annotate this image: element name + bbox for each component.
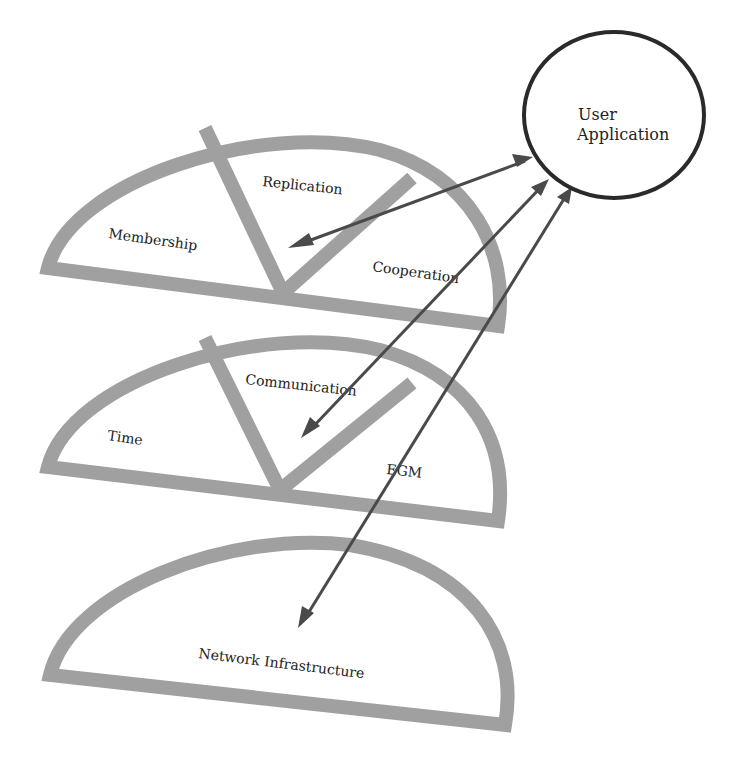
- time-label: Time: [107, 427, 144, 448]
- middle-layer: Time Communication EGM: [48, 338, 500, 521]
- network-infrastructure-label: Network Infrastructure: [198, 645, 366, 681]
- user-application-node: User Application: [524, 32, 704, 198]
- top-layer: Membership Replication Cooperation: [48, 128, 500, 326]
- replication-label: Replication: [262, 173, 344, 197]
- membership-label: Membership: [108, 225, 199, 253]
- cooperation-label: Cooperation: [372, 258, 461, 286]
- layered-architecture-diagram: Membership Replication Cooperation Time …: [0, 0, 742, 770]
- arrowhead-app-end-3: [557, 187, 572, 204]
- user-application-label-line2: Application: [576, 125, 669, 144]
- arrow-app-to-bottom-layer: [304, 194, 567, 620]
- middle-layer-divider-left: [205, 338, 280, 490]
- communication-label: Communication: [245, 371, 358, 399]
- user-application-label-line1: User: [578, 105, 617, 124]
- bottom-layer-outline: [50, 543, 508, 725]
- arrowhead-middle-layer-end: [301, 417, 320, 438]
- arrowhead-top-layer-end: [288, 233, 314, 248]
- bottom-layer: Network Infrastructure: [50, 543, 508, 725]
